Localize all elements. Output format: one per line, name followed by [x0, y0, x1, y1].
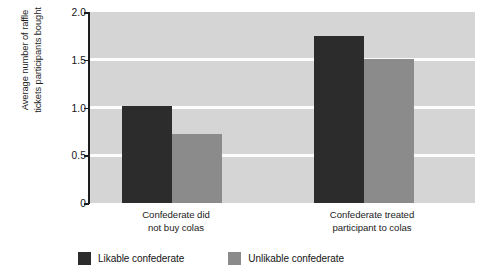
- y-axis-tickmark-0: [84, 203, 89, 205]
- bar-group-1-series-1: [364, 59, 414, 203]
- legend: Likable confederate Unlikable confederat…: [78, 252, 344, 265]
- y-axis-tick-labels: 00.51.01.52.0: [52, 0, 86, 276]
- legend-label-0: Likable confederate: [98, 253, 184, 264]
- y-axis-title: Average number of raffle tickets partici…: [19, 0, 49, 155]
- y-axis-tickmark-1: [84, 155, 89, 157]
- y-axis-tick-3: 1.5: [52, 54, 86, 65]
- y-axis-tick-4: 2.0: [52, 7, 86, 18]
- legend-label-1: Unlikable confederate: [248, 253, 344, 264]
- bar-group-0-series-0: [122, 106, 172, 203]
- y-axis-tickmark-2: [84, 108, 89, 110]
- gridline-2: [90, 58, 475, 61]
- y-axis-tickmark-3: [84, 60, 89, 62]
- legend-swatch-icon-1: [228, 252, 241, 265]
- y-axis-tick-2: 1.0: [52, 102, 86, 113]
- plot-area: [90, 12, 475, 203]
- legend-item-0: Likable confederate: [78, 252, 184, 265]
- y-axis-tickmark-4: [84, 12, 89, 14]
- y-axis-tick-1: 0.5: [52, 150, 86, 161]
- bar-chart: Average number of raffle tickets partici…: [0, 0, 491, 276]
- y-axis-tick-0: 0: [52, 198, 86, 209]
- legend-item-1: Unlikable confederate: [228, 252, 344, 265]
- legend-swatch-icon-0: [78, 252, 91, 265]
- bar-group-1-series-0: [314, 36, 364, 203]
- x-axis-label-group-1: Confederate treated participant to colas: [292, 209, 452, 234]
- bar-group-0-series-1: [172, 134, 222, 203]
- x-axis-label-group-0: Confederate did not buy colas: [106, 209, 246, 234]
